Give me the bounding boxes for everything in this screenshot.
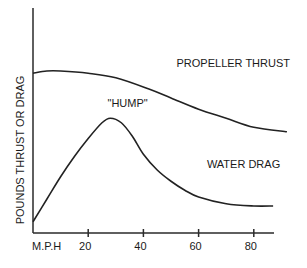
x-axis-label: M.P.H	[32, 240, 61, 252]
thrust-drag-chart: POUNDS THRUST OR DRAG M.P.H 20406080 PRO…	[0, 0, 307, 268]
y-axis-label: POUNDS THRUST OR DRAG	[14, 76, 26, 225]
annotation-hump: "HUMP"	[108, 97, 148, 109]
annotation-propeller-thrust: PROPELLER THRUST	[177, 57, 291, 69]
x-tick-label-20: 20	[79, 240, 91, 252]
annotation-water-drag: WATER DRAG	[207, 158, 280, 170]
propeller-thrust-curve	[33, 71, 287, 132]
x-tick-label-60: 60	[189, 240, 201, 252]
x-tick-label-80: 80	[245, 240, 257, 252]
x-tick-label-40: 40	[134, 240, 146, 252]
water-drag-curve	[33, 118, 273, 222]
